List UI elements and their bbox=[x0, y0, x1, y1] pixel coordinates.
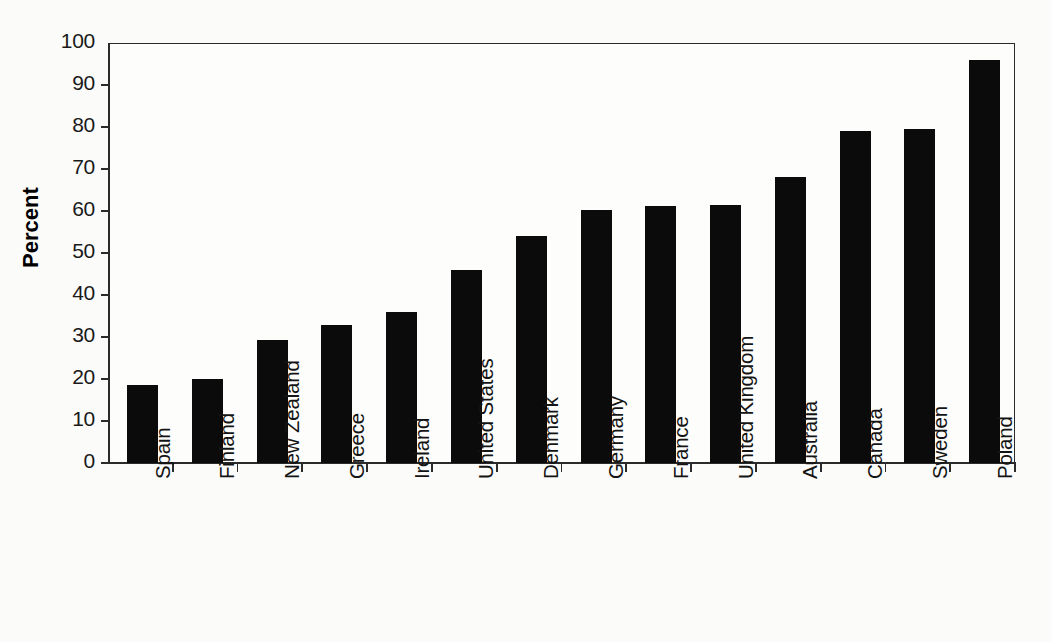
y-tick-label: 70 bbox=[40, 155, 95, 177]
y-tick-label-text: 100 bbox=[43, 29, 95, 53]
x-tick-label: Ireland bbox=[410, 418, 434, 479]
x-tick-label: Finland bbox=[215, 413, 239, 479]
x-tick-label: United Kingdom bbox=[734, 336, 758, 479]
y-tick-label-text: 40 bbox=[43, 281, 95, 305]
x-tick-label: Spain bbox=[151, 428, 175, 479]
y-tick-mark bbox=[101, 210, 110, 212]
y-tick-mark bbox=[101, 420, 110, 422]
y-tick-label-text: 70 bbox=[43, 155, 95, 179]
bar bbox=[969, 60, 1000, 463]
y-tick-label-text: 30 bbox=[43, 323, 95, 347]
y-tick-label: 30 bbox=[40, 323, 95, 345]
x-tick-label: Denmark bbox=[539, 397, 563, 479]
y-tick-label: 60 bbox=[40, 197, 95, 219]
y-tick-mark bbox=[101, 294, 110, 296]
y-tick-mark bbox=[101, 378, 110, 380]
y-tick-mark bbox=[101, 462, 110, 464]
x-tick-label: Canada bbox=[863, 408, 887, 479]
y-tick-label-text: 90 bbox=[43, 71, 95, 95]
y-tick-label-text: 80 bbox=[43, 113, 95, 137]
y-tick-label-text: 0 bbox=[43, 449, 95, 473]
x-tick-label: Australia bbox=[798, 401, 822, 479]
x-tick-label: Germany bbox=[604, 396, 628, 479]
y-tick-label: 20 bbox=[40, 365, 95, 387]
x-tick-label: Poland bbox=[993, 416, 1017, 479]
y-tick-label-text: 10 bbox=[43, 407, 95, 431]
y-tick-mark bbox=[101, 168, 110, 170]
x-tick-label: Greece bbox=[345, 413, 369, 479]
chart-page: Percent 1009080706050403020100 SpainFinl… bbox=[0, 0, 1051, 642]
x-tick-label: United States bbox=[474, 359, 498, 479]
y-tick-label-text: 50 bbox=[43, 239, 95, 263]
y-tick-mark bbox=[101, 252, 110, 254]
x-tick-label: New Zealand bbox=[280, 360, 304, 479]
y-tick-label: 0 bbox=[40, 449, 95, 471]
y-tick-label-text: 20 bbox=[43, 365, 95, 389]
y-tick-label: 10 bbox=[40, 407, 95, 429]
y-tick-mark bbox=[101, 126, 110, 128]
y-tick-mark bbox=[101, 84, 110, 86]
y-tick-label: 100 bbox=[40, 29, 95, 51]
x-tick-label: France bbox=[669, 416, 693, 479]
bar-chart: Percent 1009080706050403020100 SpainFinl… bbox=[0, 0, 1051, 642]
y-tick-mark bbox=[101, 336, 110, 338]
y-tick-label-text: 60 bbox=[43, 197, 95, 221]
y-tick-label: 90 bbox=[40, 71, 95, 93]
y-tick-label: 40 bbox=[40, 281, 95, 303]
x-tick-label: Sweden bbox=[928, 406, 952, 479]
y-tick-label: 80 bbox=[40, 113, 95, 135]
y-tick-label: 50 bbox=[40, 239, 95, 261]
